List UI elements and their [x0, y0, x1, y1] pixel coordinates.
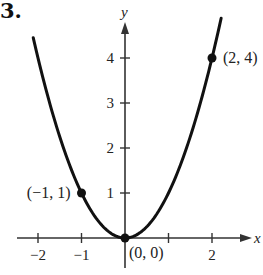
- point-label: (2, 4): [223, 49, 258, 67]
- point-marker: [121, 234, 130, 243]
- parabola-curve: [33, 18, 221, 238]
- y-axis-arrow-icon: [121, 22, 129, 34]
- problem-number: 3.: [0, 0, 22, 23]
- x-axis-label: x: [253, 230, 261, 246]
- point-marker: [208, 54, 217, 63]
- y-axis-label: y: [119, 4, 128, 20]
- point-label: (0, 0): [129, 244, 164, 262]
- x-tick-label: 2: [208, 247, 216, 263]
- x-tick-label: −1: [74, 247, 90, 263]
- y-tick-label: 3: [107, 95, 115, 111]
- axes: xy: [17, 4, 261, 268]
- y-tick-label: 2: [107, 140, 115, 156]
- axis-ticks: −2−121234: [30, 50, 216, 263]
- parabola-plot: xy −2−121234 (−1, 1)(0, 0)(2, 4): [0, 0, 263, 275]
- x-axis-arrow-icon: [240, 234, 252, 242]
- y-tick-label: 1: [107, 185, 115, 201]
- point-marker: [77, 189, 86, 198]
- y-tick-label: 4: [107, 50, 115, 66]
- graph-figure: 3. xy −2−121234 (−1, 1)(0, 0)(2, 4): [0, 0, 263, 275]
- point-label: (−1, 1): [27, 184, 71, 202]
- x-tick-label: −2: [30, 247, 46, 263]
